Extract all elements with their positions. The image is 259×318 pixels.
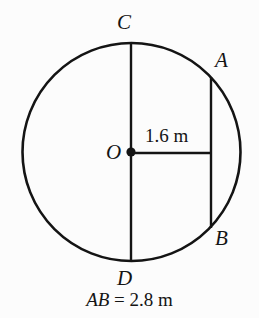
point-label-a: A — [215, 50, 228, 71]
point-label-d: D — [117, 268, 132, 289]
figure-caption: AB = 2.8 m — [0, 290, 259, 309]
center-label-o: O — [106, 142, 121, 163]
caption-segment-value: = 2.8 m — [109, 289, 173, 310]
point-label-c: C — [117, 12, 131, 33]
center-point-dot — [126, 147, 135, 156]
caption-segment-name: AB — [86, 289, 109, 310]
radius-measurement-label: 1.6 m — [145, 126, 188, 145]
geometry-figure: C D A B O 1.6 m AB = 2.8 m — [0, 0, 259, 318]
point-label-b: B — [215, 228, 228, 249]
